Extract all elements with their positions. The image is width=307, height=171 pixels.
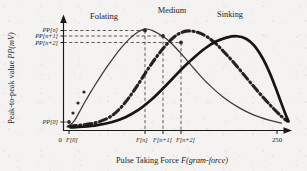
series-label-folating: Folating	[90, 12, 119, 21]
marker-ppn1	[161, 34, 165, 38]
chart-canvas: PP[n] PP[n+1] PP[n+2] PP[0] 0 F[0] F[n] …	[0, 0, 307, 171]
series-line-sinking	[71, 36, 289, 127]
marker-aux-2	[76, 101, 79, 104]
x-axis-title: Pulse Taking Force F(gram-force)	[116, 156, 228, 165]
y-axis-title-plain: Peak-to-peak value	[7, 59, 16, 124]
guide-lines	[64, 31, 182, 131]
pulse-force-chart: PP[n] PP[n+1] PP[n+2] PP[0] 0 F[0] F[n] …	[0, 0, 307, 171]
x-tick-label-zero: 0	[59, 136, 63, 143]
marker-aux-3	[82, 90, 85, 93]
y-axis-title: Peak-to-peak value PP(mV)	[7, 32, 16, 124]
y-axis-arrow-icon	[60, 15, 67, 24]
series-label-sinking: Sinking	[217, 10, 244, 19]
x-tick-label-250: 250	[272, 136, 283, 143]
x-tick-label-fn: F[n]	[135, 136, 148, 143]
x-axis-title-plain: Pulse Taking Force	[116, 156, 181, 165]
x-axis-title-italic: F(gram-force)	[180, 156, 228, 165]
marker-pp0	[67, 120, 71, 124]
x-tick-label-fn2: F[n+2]	[175, 136, 196, 143]
y-tick-label-ppn2: PP[n+2]	[34, 39, 58, 46]
x-tick-label-fn1: F[n+1]	[152, 136, 173, 143]
marker-aux-1	[71, 111, 74, 114]
marker-ppn2	[179, 41, 183, 45]
x-tick-label-f0: F[0]	[65, 136, 78, 143]
series-label-medium: Medium	[158, 6, 187, 15]
x-axis-arrow-icon	[284, 127, 293, 133]
y-tick-label-pp0: PP[0]	[42, 118, 59, 125]
y-axis-title-italic: PP(mV)	[7, 32, 16, 60]
marker-ppn	[143, 29, 147, 33]
